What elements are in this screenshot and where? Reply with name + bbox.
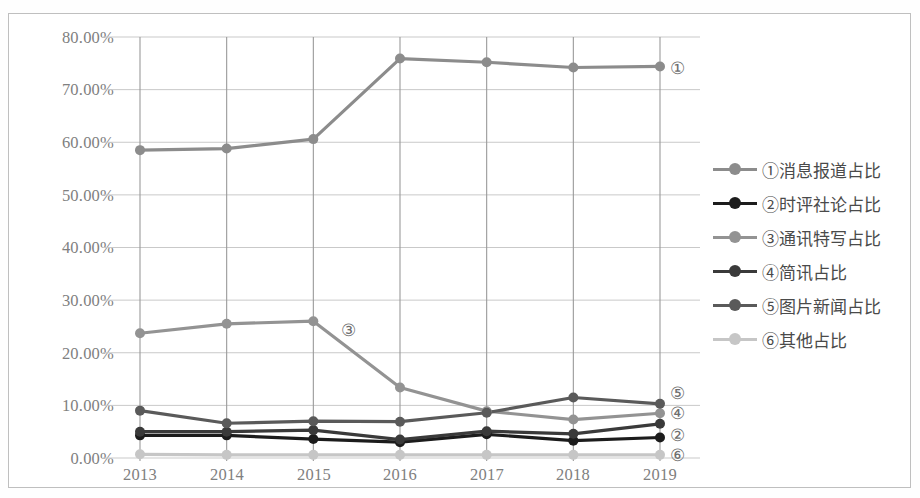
legend-label-4: ④简讯占比 bbox=[762, 259, 847, 284]
legend-item-3[interactable]: ③通讯特写占比 bbox=[713, 220, 909, 254]
x-axis-tick-2019: 2019 bbox=[625, 465, 695, 485]
legend-item-2[interactable]: ②时评社论占比 bbox=[713, 186, 909, 220]
legend-swatch-icon-1 bbox=[713, 162, 757, 176]
legend-label-3: ③通讯特写占比 bbox=[762, 225, 881, 250]
legend-item-1[interactable]: ①消息报道占比 bbox=[713, 152, 909, 186]
legend-label-5: ⑤图片新闻占比 bbox=[762, 293, 881, 318]
series-end-label-2: ② bbox=[670, 427, 685, 444]
chart-figure: 80.00% 70.00% 60.00% 50.00% 40.00% 30.00… bbox=[0, 0, 920, 498]
legend-swatch-icon-4 bbox=[713, 264, 757, 278]
series-end-label-6: ⑥ bbox=[670, 447, 685, 464]
legend-label-6: ⑥其他占比 bbox=[762, 327, 847, 352]
x-axis-tick-2013: 2013 bbox=[105, 465, 175, 485]
legend-item-4[interactable]: ④简讯占比 bbox=[713, 254, 909, 288]
y-axis-tick-40: 40.00% bbox=[22, 238, 114, 258]
y-axis-tick-60: 60.00% bbox=[22, 133, 114, 153]
x-axis-tick-2017: 2017 bbox=[452, 465, 522, 485]
legend-swatch-icon-3 bbox=[713, 230, 757, 244]
legend-swatch-icon-5 bbox=[713, 298, 757, 312]
y-axis-tick-70: 70.00% bbox=[22, 80, 114, 100]
y-axis-tick-0: 0.00% bbox=[22, 449, 114, 469]
series-annotation-3: ③ bbox=[341, 322, 356, 339]
legend-swatch-icon-2 bbox=[713, 196, 757, 210]
legend-label-1: ①消息报道占比 bbox=[762, 157, 881, 182]
y-axis-tick-50: 50.00% bbox=[22, 186, 114, 206]
y-axis-tick-30: 30.00% bbox=[22, 291, 114, 311]
chart-legend: ①消息报道占比 ②时评社论占比 ③通讯特写占比 ④简讯占比 ⑤图片新闻占比 bbox=[713, 152, 909, 356]
y-axis-tick-80: 80.00% bbox=[22, 28, 114, 48]
legend-item-6[interactable]: ⑥其他占比 bbox=[713, 322, 909, 356]
legend-label-2: ②时评社论占比 bbox=[762, 191, 881, 216]
legend-item-5[interactable]: ⑤图片新闻占比 bbox=[713, 288, 909, 322]
x-axis-tick-2015: 2015 bbox=[279, 465, 349, 485]
legend-swatch-icon-6 bbox=[713, 332, 757, 346]
series-end-label-1: ① bbox=[670, 60, 685, 77]
y-axis-tick-20: 20.00% bbox=[22, 344, 114, 364]
series-end-label-4: ④ bbox=[670, 405, 685, 422]
x-axis-tick-2014: 2014 bbox=[192, 465, 262, 485]
series-end-label-5: ⑤ bbox=[670, 385, 685, 402]
x-axis-tick-2018: 2018 bbox=[538, 465, 608, 485]
y-axis-tick-10: 10.00% bbox=[22, 396, 114, 416]
x-axis-tick-2016: 2016 bbox=[365, 465, 435, 485]
